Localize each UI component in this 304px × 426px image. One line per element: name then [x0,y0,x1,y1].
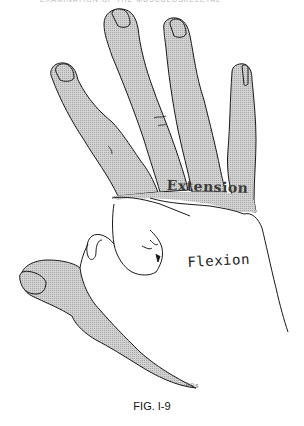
hand-illustration [0,0,304,426]
figure-caption: FIG. I-9 [0,400,304,412]
flexion-label: Flexion [187,251,250,270]
extension-label: Extension [166,177,248,196]
